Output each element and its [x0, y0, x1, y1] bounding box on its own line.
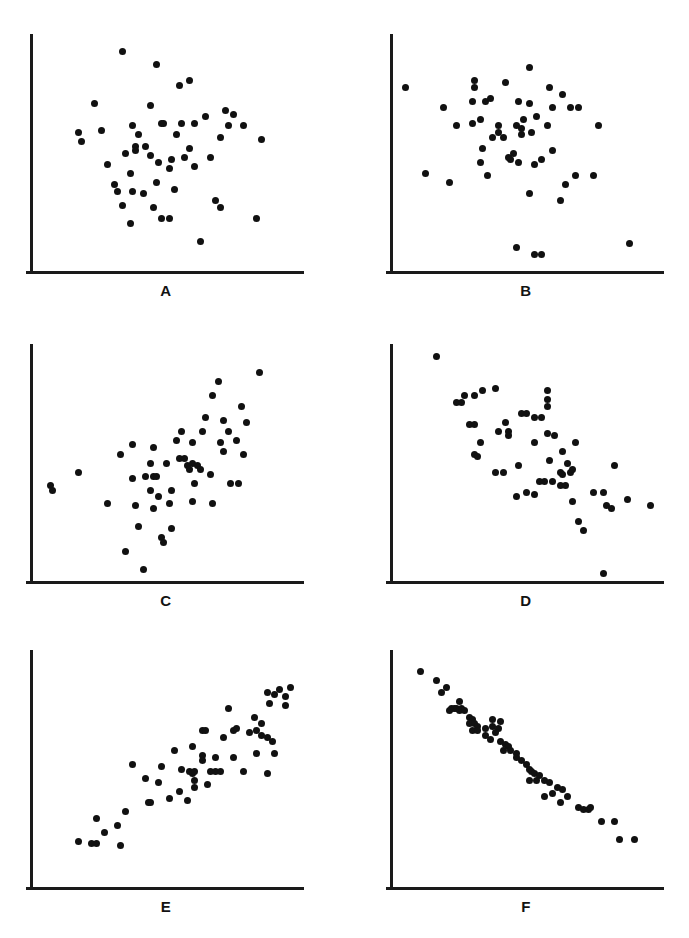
data-point [129, 441, 136, 448]
data-point [184, 797, 191, 804]
data-point [417, 668, 424, 675]
data-point [544, 403, 551, 410]
panel-f-points [386, 650, 664, 890]
data-point [171, 186, 178, 193]
data-point [287, 684, 294, 691]
data-point [209, 500, 216, 507]
data-point [114, 822, 121, 829]
data-point [186, 77, 193, 84]
data-point [557, 197, 564, 204]
data-point [251, 714, 258, 721]
data-point [191, 777, 198, 784]
data-point [153, 61, 160, 68]
data-point [230, 754, 237, 761]
data-point [608, 505, 615, 512]
data-point [422, 170, 429, 177]
data-point [222, 107, 229, 114]
data-point [515, 159, 522, 166]
panel-e-plot-area [26, 650, 304, 890]
data-point [626, 240, 633, 247]
data-point [225, 122, 232, 129]
data-point [495, 428, 502, 435]
data-point [271, 750, 278, 757]
panel-b-plot-area [386, 34, 664, 274]
data-point [114, 188, 121, 195]
data-point [500, 469, 507, 476]
data-point [587, 804, 594, 811]
data-point [233, 725, 240, 732]
data-point [611, 462, 618, 469]
data-point [140, 190, 147, 197]
data-point [489, 716, 496, 723]
data-point [186, 145, 193, 152]
panel-d-points [386, 344, 664, 584]
data-point [129, 188, 136, 195]
data-point [163, 460, 170, 467]
data-point [567, 104, 574, 111]
data-point [489, 134, 496, 141]
data-point [538, 251, 545, 258]
data-point [502, 79, 509, 86]
data-point [181, 455, 188, 462]
data-point [461, 392, 468, 399]
panel-b: B [386, 34, 666, 309]
data-point [233, 437, 240, 444]
data-point [440, 104, 447, 111]
data-point [598, 818, 605, 825]
data-point [471, 84, 478, 91]
data-point [572, 439, 579, 446]
data-point [243, 419, 250, 426]
data-point [282, 702, 289, 709]
data-point [559, 471, 566, 478]
data-point [502, 419, 509, 426]
data-point [176, 82, 183, 89]
data-point [575, 104, 582, 111]
data-point [147, 152, 154, 159]
data-point [544, 430, 551, 437]
data-point [189, 439, 196, 446]
data-point [220, 417, 227, 424]
data-point [253, 750, 260, 757]
data-point [191, 480, 198, 487]
data-point [616, 836, 623, 843]
data-point [595, 122, 602, 129]
data-point [135, 523, 142, 530]
data-point [240, 122, 247, 129]
data-point [181, 154, 188, 161]
data-point [487, 736, 494, 743]
data-point [458, 399, 465, 406]
data-point [500, 134, 507, 141]
data-point [549, 104, 556, 111]
data-point [549, 147, 556, 154]
data-point [559, 448, 566, 455]
data-point [264, 689, 271, 696]
data-point [531, 439, 538, 446]
data-point [215, 378, 222, 385]
data-point [235, 480, 242, 487]
data-point [575, 518, 582, 525]
data-point [526, 190, 533, 197]
data-point [500, 747, 507, 754]
data-point [600, 489, 607, 496]
data-point [127, 220, 134, 227]
data-point [477, 116, 484, 123]
data-point [469, 120, 476, 127]
data-point [549, 790, 556, 797]
data-point [199, 428, 206, 435]
panel-a-label: A [26, 282, 306, 299]
data-point [531, 251, 538, 258]
data-point [544, 387, 551, 394]
data-point [168, 487, 175, 494]
data-point [536, 478, 543, 485]
data-point [647, 502, 654, 509]
data-point [544, 122, 551, 129]
data-point [469, 98, 476, 105]
panel-e: E [26, 650, 306, 925]
data-point [132, 502, 139, 509]
data-point [471, 392, 478, 399]
data-point [155, 779, 162, 786]
data-point [104, 500, 111, 507]
data-point [269, 738, 276, 745]
data-point [515, 462, 522, 469]
data-point [168, 525, 175, 532]
